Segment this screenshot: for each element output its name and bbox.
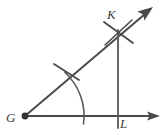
horizontal-ray [25,112,160,121]
slanted-ray [25,7,153,116]
vertex-point-dot [22,113,29,120]
slanted-ray-line [25,14,145,116]
point-label-g: G [6,111,15,124]
geometry-canvas [0,0,166,135]
geometry-figure: G K L [0,0,166,135]
point-label-l: L [120,117,127,130]
point-label-k: K [107,8,116,21]
